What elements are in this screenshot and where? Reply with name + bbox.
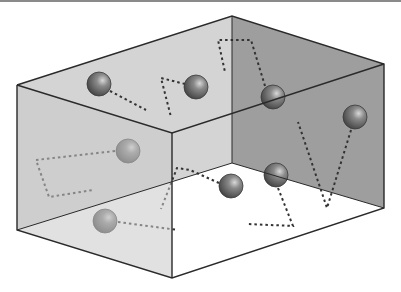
gas-molecules-box-diagram [0, 0, 401, 292]
molecule-sphere [184, 75, 208, 99]
molecule-sphere [87, 72, 111, 96]
molecule-sphere [219, 174, 243, 198]
molecule-sphere [264, 163, 288, 187]
molecule-sphere [343, 105, 367, 129]
